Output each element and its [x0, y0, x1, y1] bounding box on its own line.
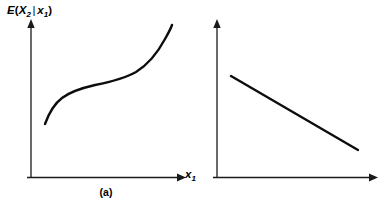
y-axis-label-a-variable: X [19, 4, 27, 16]
y-axis-label-a: E(X2|x1) [7, 4, 52, 16]
y-axis-label-a-conditioned-variable: x [37, 4, 44, 16]
y-axis-label-a-variable-subscript: 2 [27, 10, 32, 19]
x-axis-label-a: x1 [185, 168, 196, 180]
panel-b: E(X1|x2) x2 (b) [196, 0, 392, 207]
figure-root: E(X2|x1) x1 (a) E(X1|x2) x2 (b) [0, 0, 392, 207]
panel-a: E(X2|x1) x1 (a) [0, 0, 196, 207]
y-axis-label-a-conditioned-subscript: 1 [44, 10, 49, 19]
panel-caption-a: (a) [86, 186, 126, 198]
y-axis-label-a-function: E [7, 4, 15, 16]
y-axis-label-a-close-paren: ) [48, 4, 52, 16]
x-axis-label-a-variable: x [185, 168, 192, 180]
